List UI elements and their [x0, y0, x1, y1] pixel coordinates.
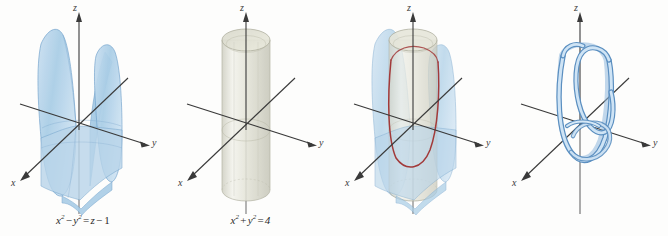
eq-equals: =: [256, 214, 264, 226]
panel-1-graphic: [0, 0, 167, 236]
panel-space-curve: z y x: [501, 0, 668, 236]
z-axis-label: z: [407, 3, 411, 13]
y-axis-arrowhead: [474, 142, 484, 148]
panel-hyperbolic-paraboloid: z y x x2−y2=z−1: [0, 0, 167, 236]
z-axis-arrowhead: [76, 12, 82, 22]
figure-container: z y x x2−y2=z−1: [0, 0, 668, 236]
x-axis-label: x: [11, 178, 15, 188]
eq-lhs-operator: −: [65, 214, 73, 226]
y-axis-arrowhead: [641, 142, 651, 148]
y-axis-label: y: [486, 138, 490, 148]
y-axis-label: y: [152, 138, 156, 148]
z-axis-arrowhead: [243, 12, 249, 22]
equation-label-panel-1: x2−y2=z−1: [0, 214, 167, 226]
panel-circular-cylinder: z y x x2+y2=4: [167, 0, 334, 236]
z-axis-arrowhead: [577, 12, 583, 22]
eq-rhs-const: 4: [265, 214, 271, 226]
panel-3-graphic: [334, 0, 501, 236]
eq-rhs-const: 1: [103, 214, 111, 226]
y-axis-label: y: [653, 138, 657, 148]
y-axis-arrowhead: [140, 142, 150, 148]
y-axis-arrowhead: [307, 142, 317, 148]
eq-lhs-operator: +: [239, 214, 247, 226]
z-axis-label: z: [574, 3, 578, 13]
z-axis-arrowhead: [410, 12, 416, 22]
z-axis-label: z: [240, 3, 244, 13]
y-axis-label: y: [319, 138, 323, 148]
panel-intersection: z y x: [334, 0, 501, 236]
panel-4-graphic: [501, 0, 668, 236]
equation-label-panel-2: x2+y2=4: [167, 214, 334, 226]
space-curve-tube-inner: [559, 56, 611, 160]
x-axis-label: x: [345, 178, 349, 188]
x-axis-label: x: [178, 178, 182, 188]
z-axis-label: z: [73, 3, 77, 13]
panel-2-graphic: [167, 0, 334, 236]
x-axis-label: x: [512, 178, 516, 188]
